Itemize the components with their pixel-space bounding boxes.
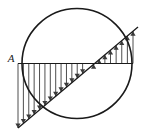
point-a-label: A	[7, 52, 15, 64]
circle-diagonal-diagram: A	[0, 0, 146, 137]
figure-container: A	[0, 0, 146, 137]
diagonal-chord-line	[18, 27, 138, 128]
